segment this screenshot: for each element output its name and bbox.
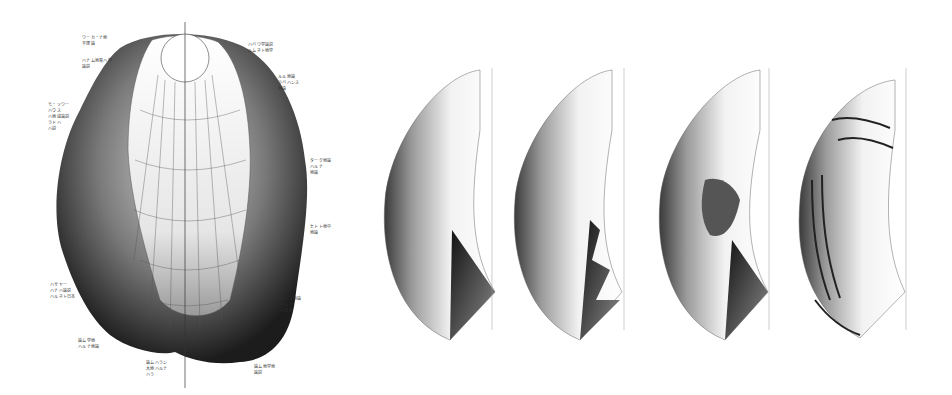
callout-9: ワリス地論 ハルナ ト日本 xyxy=(280,296,302,314)
stage-2-globe xyxy=(514,68,624,340)
callout-12: 論ム地学地 論説 xyxy=(254,364,276,376)
callout-11: 論ムハラン 大地ハルナ ハラ xyxy=(146,360,168,378)
stage-1-globe xyxy=(384,68,495,340)
callout-6: ターク地論 ハルナ 地論 xyxy=(310,158,332,176)
stage-3-globe xyxy=(659,68,769,340)
callout-1: ワーカ・ナ地 平理論 xyxy=(82,35,108,47)
stage-4-globe xyxy=(799,68,906,338)
callout-10: 論ム学地 ハルナ地論 xyxy=(78,338,100,350)
callout-4: ハバワ学論説 ルムネト地学 xyxy=(248,42,274,54)
callout-5: ルル地論 ラバハンス 地論 xyxy=(278,74,300,92)
callout-2: ハナム地質ハ学 論説 xyxy=(82,58,112,70)
callout-3: モ・ソワー ハウス ハ地域論説 ラドハ ハ説 xyxy=(48,102,70,132)
figure-canvas: ワーカ・ナ地 平理論 ハナム地質ハ学 論説 モ・ソワー ハウス ハ地域論説 ラド… xyxy=(0,0,952,395)
main-relief-globe xyxy=(56,22,307,388)
figure-svg xyxy=(0,0,952,395)
callout-8: ハサヤー ハナハ論説 ハルネト日本 xyxy=(50,282,76,300)
callout-7: ヒトト地中 地論 xyxy=(310,224,332,236)
